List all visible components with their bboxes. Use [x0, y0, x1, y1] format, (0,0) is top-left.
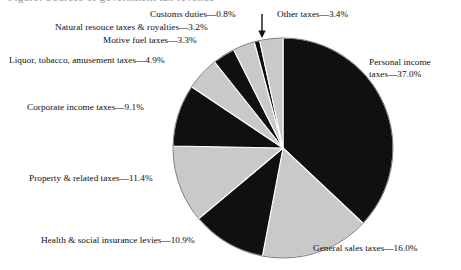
pie-slice-group	[173, 38, 393, 258]
label-natural-resource-taxes: Natural resouce taxes & royalties—3.2%	[55, 22, 208, 33]
label-personal-income-taxes: Personal income taxes—37.0%	[369, 57, 461, 80]
label-customs-duties: Customs duties—0.8%	[150, 9, 236, 20]
label-motive-fuel-taxes: Motive fuel taxes—3.3%	[103, 35, 197, 46]
label-personal-income-taxes-line2: taxes—37.0%	[369, 69, 421, 79]
label-health-social-insurance-levies: Health & social insurance levies—10.9%	[41, 235, 195, 246]
pie-chart-figure: Figure: Sources of government tax revenu…	[0, 0, 461, 270]
label-personal-income-taxes-line1: Personal income	[369, 57, 431, 67]
label-general-sales-taxes: General sales taxes—16.0%	[313, 243, 418, 254]
pie-chart-graphic	[0, 0, 461, 270]
label-property-related-taxes: Property & related taxes—11.4%	[29, 173, 153, 184]
label-other-taxes: Other taxes—3.4%	[277, 9, 348, 20]
customs-duties-leader-arrow	[258, 14, 265, 38]
label-corporate-income-taxes: Corporate income taxes—9.1%	[27, 102, 144, 113]
label-liquor-tobacco-amusement-taxes: Liquor, tobacco, amusement taxes—4.9%	[9, 55, 165, 66]
